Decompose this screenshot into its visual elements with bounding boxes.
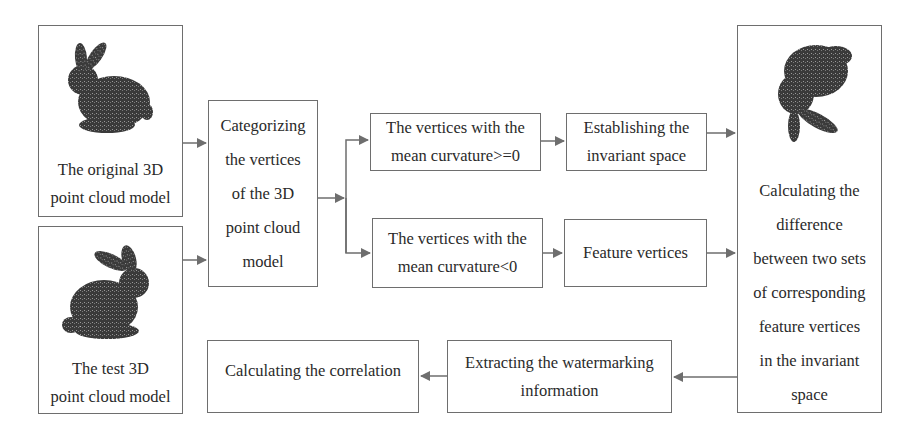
node-label-line: Calculating the correlation (225, 357, 401, 385)
node-label-line: space (738, 378, 881, 412)
node-label-line: difference (738, 208, 881, 242)
node-label-line: model (242, 245, 283, 279)
node-feature-vertices: Feature vertices (564, 219, 707, 287)
node-label-line: of corresponding (738, 276, 881, 310)
node-label-line: mean curvature<0 (398, 253, 518, 281)
node-label-line: invariant space (587, 142, 686, 170)
arrow-branch-to-positive (346, 140, 368, 253)
node-label-line: The vertices with the (388, 225, 527, 253)
node-label-line: feature vertices (738, 310, 881, 344)
node-negative-curvature: The vertices with the mean curvature<0 (372, 218, 543, 288)
node-label-line: Extracting the watermarking (465, 349, 654, 377)
arrow-branch-to-negative (346, 198, 370, 253)
node-original-model: The original 3D point cloud model (38, 25, 183, 217)
node-test-model: The test 3D point cloud model (38, 226, 183, 414)
node-label-line: point cloud (226, 211, 301, 245)
node-label-line: the vertices (225, 143, 301, 177)
node-label-line: between two sets (738, 242, 881, 276)
node-label-line: of the 3D (232, 177, 294, 211)
node-extract-watermark: Extracting the watermarking information (447, 340, 672, 413)
node-label-line: point cloud model (39, 383, 182, 411)
node-positive-curvature: The vertices with the mean curvature>=0 (370, 113, 541, 171)
bunny-point-cloud-icon (59, 40, 159, 140)
node-label-line: in the invariant (738, 344, 881, 378)
node-label-line: Establishing the (584, 114, 690, 142)
node-label-line: Calculating the (738, 174, 881, 208)
node-label-line: Categorizing (220, 109, 305, 143)
node-label-line: point cloud model (39, 184, 182, 212)
node-invariant-space: Establishing the invariant space (566, 113, 707, 171)
bunny-point-cloud-icon (57, 245, 161, 345)
node-label-line: The original 3D (39, 156, 182, 184)
node-categorize-vertices: Categorizing the vertices of the 3D poin… (208, 100, 318, 287)
node-label-line: Feature vertices (583, 239, 688, 267)
node-calculate-correlation: Calculating the correlation (207, 340, 419, 413)
node-label-line: information (521, 377, 599, 405)
node-calculate-difference: Calculating the difference between two s… (737, 25, 882, 413)
node-label-line: mean curvature>=0 (391, 142, 520, 170)
node-label-line: The vertices with the (386, 114, 525, 142)
node-label-line: The test 3D (39, 355, 182, 383)
transformed-point-cloud-icon (766, 36, 856, 146)
